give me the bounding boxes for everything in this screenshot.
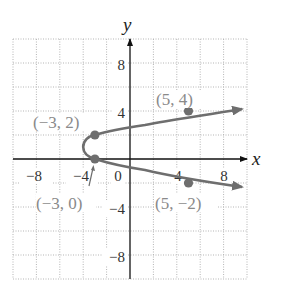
- parabola-chart: x y −8 −4 0 4 8 8 4 −4 −8 (−3, 2) (5, 4): [0, 0, 281, 302]
- y-tick-label: 4: [118, 105, 126, 121]
- x-tick-label: 8: [220, 168, 228, 184]
- y-axis-label: y: [121, 14, 132, 35]
- point-label: (5, 4): [156, 90, 193, 109]
- x-axis-label: x: [251, 148, 261, 169]
- y-tick-label: −8: [109, 249, 125, 265]
- point-label: (5, −2): [155, 194, 201, 213]
- point-label: (−3, 0): [36, 194, 82, 213]
- point-5-neg2: [184, 178, 193, 187]
- y-tick-label: −4: [109, 201, 125, 217]
- x-tick-label: −4: [73, 168, 89, 184]
- point-label: (−3, 2): [33, 113, 79, 132]
- x-tick-label: 0: [114, 168, 122, 184]
- x-tick-label: −8: [26, 168, 42, 184]
- point-neg3-2: [90, 130, 99, 139]
- y-tick-label: 8: [118, 57, 126, 73]
- point-neg3-0: [90, 154, 99, 163]
